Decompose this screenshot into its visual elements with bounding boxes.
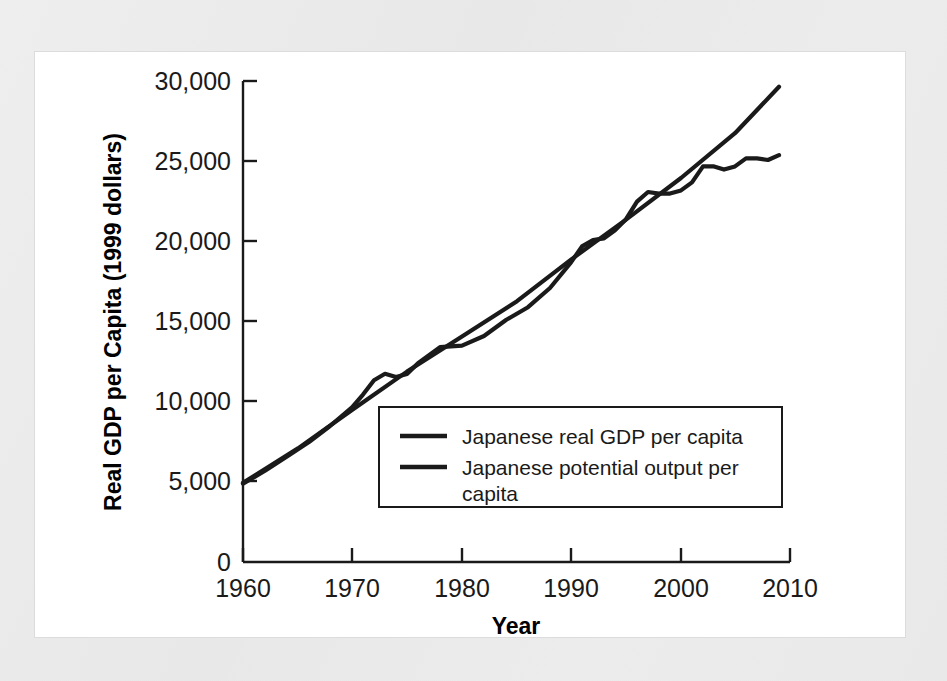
- y-tick-label-25000: 25,000: [155, 147, 231, 175]
- y-tick-label-15000: 15,000: [155, 307, 231, 335]
- y-tick-label-10000: 10,000: [155, 387, 231, 415]
- legend-label-potential-output: Japanese potential output per: [462, 456, 739, 479]
- line-chart: 30,000 25,000 20,000 15,000 10,000 5,000…: [35, 52, 905, 637]
- y-tick-label-30000: 30,000: [155, 67, 231, 95]
- figure-panel: 30,000 25,000 20,000 15,000 10,000 5,000…: [35, 52, 905, 637]
- x-tick-label-2010: 2010: [762, 574, 818, 602]
- x-axis-title: Year: [492, 613, 541, 637]
- y-tick-label-0: 0: [217, 548, 231, 576]
- y-tick-label-20000: 20,000: [155, 227, 231, 255]
- figure-page: 30,000 25,000 20,000 15,000 10,000 5,000…: [0, 0, 947, 681]
- legend-label-real-gdp: Japanese real GDP per capita: [462, 425, 743, 448]
- y-tick-label-5000: 5,000: [168, 467, 231, 495]
- x-tick-label-2000: 2000: [653, 574, 709, 602]
- legend-label-potential-output-line2: capita: [462, 482, 518, 505]
- y-axis-title: Real GDP per Capita (1999 dollars): [100, 133, 126, 511]
- chart-legend: Japanese real GDP per capita Japanese po…: [379, 407, 782, 507]
- x-tick-label-1980: 1980: [434, 574, 490, 602]
- x-tick-label-1970: 1970: [324, 574, 380, 602]
- x-tick-label-1960: 1960: [215, 574, 271, 602]
- x-axis-ticks: [243, 548, 790, 562]
- y-axis-ticks: [243, 81, 257, 481]
- x-tick-label-1990: 1990: [543, 574, 599, 602]
